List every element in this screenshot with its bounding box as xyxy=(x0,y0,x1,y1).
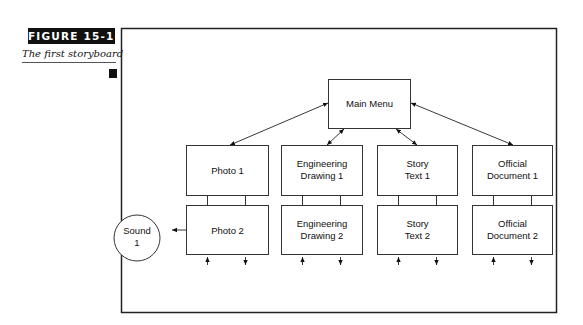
box-engineering-drawing-2: Engineering Drawing 2 xyxy=(282,206,363,255)
svg-text:Photo 2: Photo 2 xyxy=(211,225,244,236)
svg-text:Official: Official xyxy=(498,218,527,229)
box-story-text-2: Story Text 2 xyxy=(378,206,458,255)
storyboard-diagram: Main Menu Photo 1 Engineering Drawing 1 … xyxy=(0,0,583,325)
arrow-main-engineering xyxy=(327,129,344,145)
row-connectors xyxy=(208,196,532,206)
svg-text:Story: Story xyxy=(406,218,428,229)
main-menu-label: Main Menu xyxy=(346,98,393,109)
box-story-text-1: Story Text 1 xyxy=(378,146,458,196)
svg-text:Document 2: Document 2 xyxy=(487,230,538,241)
arrow-main-story xyxy=(396,129,417,145)
svg-text:Engineering: Engineering xyxy=(297,218,348,229)
svg-text:Drawing 1: Drawing 1 xyxy=(301,170,344,181)
arrow-main-official xyxy=(411,103,513,145)
box-official-document-1: Official Document 1 xyxy=(473,146,553,196)
sound-circle: Sound 1 xyxy=(114,215,160,261)
svg-text:1: 1 xyxy=(134,237,139,248)
main-menu-box: Main Menu xyxy=(329,80,411,129)
svg-text:Engineering: Engineering xyxy=(297,158,348,169)
box-official-document-2: Official Document 2 xyxy=(473,206,553,255)
box-engineering-drawing-1: Engineering Drawing 1 xyxy=(282,146,363,196)
svg-text:Document 1: Document 1 xyxy=(487,170,538,181)
svg-text:Text 2: Text 2 xyxy=(405,230,430,241)
svg-text:Sound: Sound xyxy=(123,225,150,236)
svg-text:Text 1: Text 1 xyxy=(405,170,430,181)
box-photo-1: Photo 1 xyxy=(187,146,269,196)
svg-text:Story: Story xyxy=(406,158,428,169)
svg-text:Photo 1: Photo 1 xyxy=(211,165,244,176)
svg-text:Official: Official xyxy=(498,158,527,169)
bottom-arrows xyxy=(208,257,532,265)
svg-text:Drawing 2: Drawing 2 xyxy=(301,230,344,241)
box-photo-2: Photo 2 xyxy=(187,206,269,255)
arrow-main-photo xyxy=(230,103,328,145)
